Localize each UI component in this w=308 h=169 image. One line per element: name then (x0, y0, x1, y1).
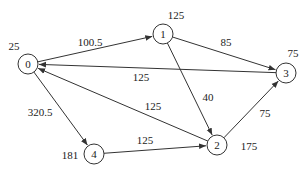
edge-weight-label: 125 (133, 71, 150, 83)
node-label: 2 (214, 139, 220, 151)
node-3: 375 (276, 47, 299, 83)
edges-layer: 100.58512540320.512512575 (28, 36, 279, 153)
node-value-label: 25 (9, 40, 21, 52)
edge-weight-label: 85 (221, 36, 233, 48)
edge-weight-label: 100.5 (78, 36, 103, 48)
edge-2-to-0: 125 (38, 68, 208, 141)
node-value-label: 75 (288, 47, 300, 59)
node-0: 025 (9, 40, 39, 74)
node-4: 4181 (62, 144, 104, 164)
edge-3-to-0: 125 (39, 64, 276, 83)
edge-weight-label: 125 (145, 100, 162, 112)
node-1: 1125 (153, 9, 185, 44)
node-label: 4 (91, 148, 97, 160)
node-value-label: 175 (241, 140, 258, 152)
edge-1-to-2: 40 (167, 43, 214, 135)
edge-1-to-3: 85 (173, 36, 276, 70)
node-label: 1 (160, 28, 166, 40)
node-value-label: 125 (168, 9, 185, 21)
edge-0-to-4: 320.5 (28, 72, 88, 145)
node-value-label: 181 (62, 149, 79, 161)
edge-weight-label: 75 (260, 107, 272, 119)
edge-2-to-3: 75 (224, 81, 278, 138)
edge-4-to-2: 125 (104, 134, 206, 153)
node-label: 0 (25, 58, 31, 70)
edge-weight-label: 320.5 (28, 106, 53, 118)
edge-line (104, 146, 206, 153)
edge-line (38, 68, 208, 141)
edge-weight-label: 125 (137, 134, 154, 146)
edge-weight-label: 40 (203, 91, 215, 103)
nodes-layer: 025112521753754181 (9, 9, 300, 164)
edge-line (39, 64, 276, 72)
node-2: 2175 (207, 135, 258, 155)
node-label: 3 (283, 67, 289, 79)
edge-0-to-1: 100.5 (38, 36, 153, 62)
graph-diagram: 100.58512540320.512512575 02511252175375… (0, 0, 308, 169)
edge-line (167, 43, 212, 135)
